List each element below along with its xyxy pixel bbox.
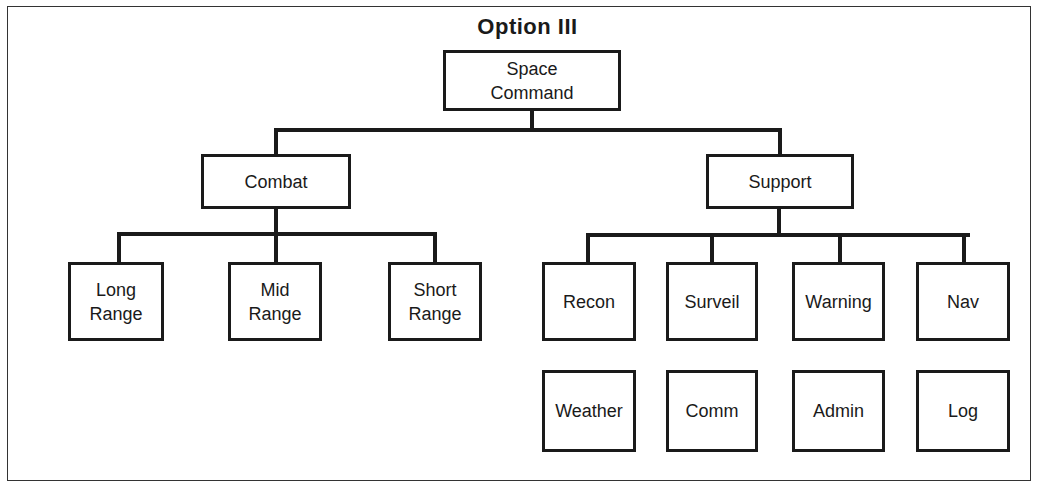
- node-label: Comm: [686, 399, 739, 423]
- node-admin: Admin: [792, 370, 885, 452]
- node-mid-range: MidRange: [228, 262, 322, 341]
- node-combat: Combat: [201, 154, 351, 209]
- node-label: Support: [748, 170, 811, 194]
- node-label: Short: [408, 278, 461, 302]
- node-label: Log: [948, 399, 978, 423]
- node-label: Range: [408, 302, 461, 326]
- connector: [586, 233, 970, 237]
- node-label: Command: [490, 81, 573, 105]
- node-label: Nav: [947, 290, 979, 314]
- node-label: Weather: [555, 399, 623, 423]
- node-label: Range: [89, 302, 142, 326]
- node-comm: Comm: [666, 370, 758, 452]
- node-label: Space: [490, 57, 573, 81]
- connector: [777, 208, 781, 236]
- connector: [778, 128, 782, 155]
- node-weather: Weather: [542, 370, 636, 452]
- node-label: Surveil: [684, 290, 739, 314]
- connector: [586, 233, 590, 263]
- node-log: Log: [916, 370, 1010, 452]
- node-label: Combat: [244, 170, 307, 194]
- node-space-command: Space Command: [443, 50, 621, 111]
- connector: [274, 232, 278, 263]
- node-support: Support: [706, 154, 854, 209]
- node-warning: Warning: [792, 262, 885, 341]
- node-label: Admin: [813, 399, 864, 423]
- node-long-range: LongRange: [68, 262, 164, 341]
- node-label: Long: [89, 278, 142, 302]
- node-surveil: Surveil: [666, 262, 758, 341]
- connector: [710, 233, 714, 263]
- node-label: Mid: [248, 278, 301, 302]
- connector: [838, 233, 842, 263]
- node-short-range: ShortRange: [388, 262, 482, 341]
- node-label: Range: [248, 302, 301, 326]
- node-label: Warning: [805, 290, 871, 314]
- node-nav: Nav: [916, 262, 1010, 341]
- connector: [274, 128, 782, 132]
- diagram-title: Option III: [0, 14, 1055, 40]
- connector: [274, 128, 278, 155]
- connector: [117, 232, 121, 263]
- connector: [962, 233, 966, 263]
- node-recon: Recon: [542, 262, 636, 341]
- node-label: Recon: [563, 290, 615, 314]
- connector: [433, 232, 437, 263]
